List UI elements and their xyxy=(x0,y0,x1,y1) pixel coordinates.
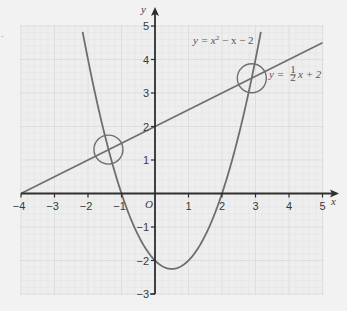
x-tick-label: −3 xyxy=(46,200,59,212)
y-tick-label: 4 xyxy=(143,54,149,66)
y-tick-label: 3 xyxy=(143,87,149,99)
x-tick-label: 2 xyxy=(219,200,225,212)
y-tick-label: 2 xyxy=(143,121,149,133)
origin-label: O xyxy=(145,198,153,210)
graph-figure: −4−3−2−112345−3−2−112345 y x O y = x2 − … xyxy=(0,0,347,311)
x-tick-label: 5 xyxy=(319,200,325,212)
x-tick-label: 4 xyxy=(286,200,292,212)
svg-text:y =: y = xyxy=(268,68,284,80)
y-tick-label: −2 xyxy=(136,255,149,267)
x-tick-label: 1 xyxy=(185,200,191,212)
y-tick-label: 5 xyxy=(143,20,149,32)
y-tick-label: 1 xyxy=(143,154,149,166)
y-axis-label: y xyxy=(140,3,146,15)
x-tick-label: −1 xyxy=(113,200,126,212)
x-tick-label: −2 xyxy=(80,200,93,212)
linear-label-prefix: y = xyxy=(268,68,284,80)
y-tick-label: −1 xyxy=(136,221,149,233)
x-axis-label: x xyxy=(330,195,336,207)
stray-mark: - xyxy=(1,31,4,40)
x-tick-label: 3 xyxy=(252,200,258,212)
svg-text:x + 2: x + 2 xyxy=(297,68,322,80)
linear-label-denominator: 2 xyxy=(290,71,296,83)
quadratic-label-prefix: y = x xyxy=(192,34,216,46)
linear-label-suffix: x + 2 xyxy=(297,68,322,80)
y-tick-label: −3 xyxy=(136,288,149,300)
x-tick-label: −4 xyxy=(13,200,26,212)
quadratic-label-suffix: − x − 2 xyxy=(219,34,253,46)
quadratic-equation-label: y = x2 − x − 2 xyxy=(192,34,254,46)
